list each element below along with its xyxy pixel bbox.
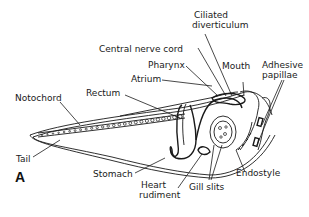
label-central-nerve-cord: Central nerve cord [99,44,183,54]
label-heart-rudiment-1: Heart [141,180,167,190]
label-endostyle: Endostyle [236,168,281,178]
label-mouth: Mouth [222,61,250,71]
label-pharynx: Pharynx [148,60,185,70]
notochord-cell [52,133,53,134]
label-notochord: Notochord [15,93,62,103]
notochord-cell [80,129,82,131]
notochord-cell [145,119,148,122]
notochord-cell [129,122,132,125]
notochord-cell [85,128,87,130]
notochord-cell [123,123,126,126]
nerve-cord [120,92,238,116]
notochord-cell [140,120,143,123]
notochord-cell [102,126,104,128]
notochord-cell [69,130,71,132]
label-atrium: Atrium [131,74,161,84]
pharynx [210,116,236,148]
notochord-cell [134,121,137,124]
label-gill-slits: Gill slits [189,182,225,192]
notochord-cell [91,127,93,129]
notochord-cell [96,126,98,128]
notochord-cell [113,124,116,127]
notochord-cell [47,134,48,135]
label-ciliated-diverticulum-2: diverticulum [192,20,248,30]
label-heart-rudiment-2: rudiment [139,190,181,200]
adhesive-papillae [253,98,270,150]
label-adhesive-papillae-1: Adhesive [262,60,303,70]
notochord-cell [118,123,121,126]
notochord-cell [74,130,76,132]
notochord-cell [63,131,65,133]
notochord-cell [162,117,165,120]
label-stomach: Stomach [93,169,133,179]
notochord-cell [167,116,171,120]
label-rectum: Rectum [86,88,120,98]
label-adhesive-papillae-2: papillae [262,70,298,80]
panel-label: A [15,169,25,185]
label-tail: Tail [15,154,31,164]
notochord-cell [41,134,42,135]
notochord-cell [107,125,109,127]
label-ciliated-diverticulum-1: Ciliated [194,10,228,20]
heart-rudiment [198,147,210,155]
tunicate-larva-diagram: Ciliated diverticulum Central nerve cord… [0,0,309,217]
notochord-cell [156,118,159,121]
notochord-cell [151,119,154,122]
notochord-cell [58,132,60,134]
